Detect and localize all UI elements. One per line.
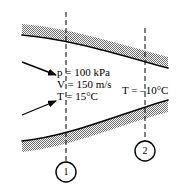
upper-inlet-arrow [22, 62, 56, 75]
duct-flow-figure: p = 100 kPa V = 150 m/s T = 15°C T = –10… [0, 0, 196, 191]
duct-flow-svg [0, 0, 196, 191]
station-2-circle [135, 141, 155, 161]
lower-inlet-arrow [22, 101, 56, 115]
station-1-circle [56, 162, 76, 182]
upper-wall-shading [22, 24, 168, 67]
upper-wall [22, 24, 168, 68]
